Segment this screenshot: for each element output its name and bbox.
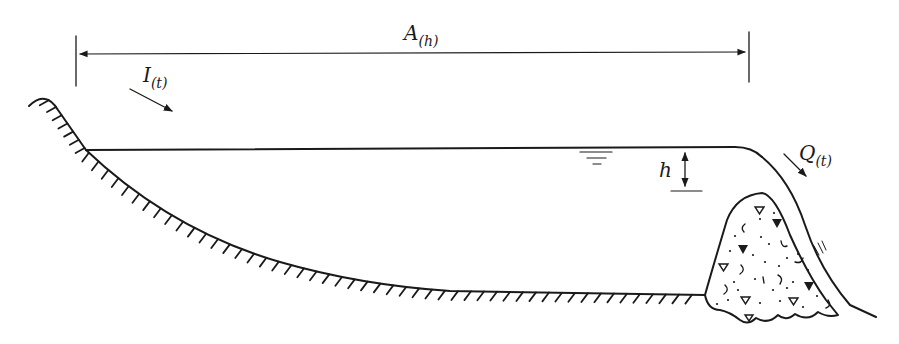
left-bank	[29, 99, 86, 150]
rock-fill-pattern	[716, 207, 830, 321]
head-dimension: h	[659, 153, 702, 191]
water-level-icon	[580, 152, 612, 164]
area-dimension: A(h)	[76, 21, 749, 86]
area-label: A(h)	[402, 21, 438, 49]
head-label: h	[659, 158, 672, 182]
reservoir-diagram: A(h) I(t) h	[0, 0, 899, 344]
outflow-label: Q(t)	[799, 141, 832, 169]
outflow-arrow: Q(t)	[784, 141, 832, 176]
inflow-arrow: I(t)	[130, 63, 172, 111]
overflow-nappe	[762, 157, 876, 317]
inflow-label: I(t)	[142, 63, 167, 91]
reservoir-bed	[40, 100, 705, 303]
